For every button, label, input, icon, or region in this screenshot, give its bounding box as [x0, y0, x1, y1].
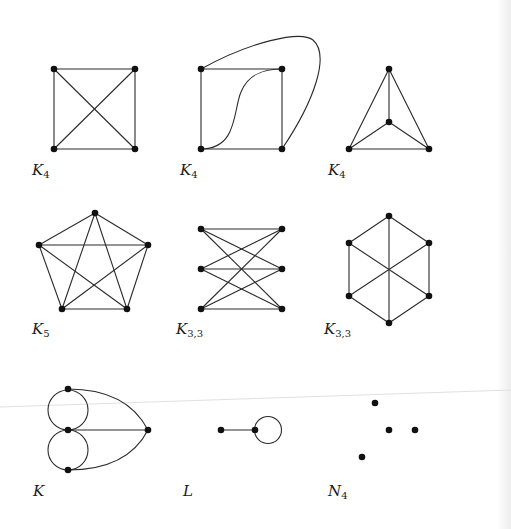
label-k4-square: K4 [32, 163, 50, 180]
label-k33-hexagon: K3,3 [324, 322, 351, 339]
graph-k33-hexagon [346, 213, 433, 327]
label-k33-bipartite: K3,3 [176, 322, 203, 339]
graph-k4-square [51, 66, 139, 153]
graph-figure: K4 K4 K4 K5 K3,3 K3,3 K L N4 [0, 0, 511, 529]
label-k4-triangle: K4 [328, 163, 346, 180]
label-k4-curved: K4 [180, 163, 198, 180]
graph-n4 [359, 400, 419, 461]
graph-k4-triangle [346, 66, 433, 153]
graph-k4-curved [198, 37, 320, 153]
graph-k-multigraph [48, 386, 151, 474]
graph-l [218, 417, 282, 444]
label-k5: K5 [32, 322, 50, 339]
graph-k5 [36, 210, 152, 313]
page-edge-shadow [497, 0, 511, 529]
label-l: L [183, 484, 193, 501]
label-k-multigraph: K [33, 484, 44, 501]
graph-k33-bipartite [198, 226, 286, 313]
label-n4: N4 [328, 484, 348, 501]
graph-canvas [0, 0, 511, 529]
